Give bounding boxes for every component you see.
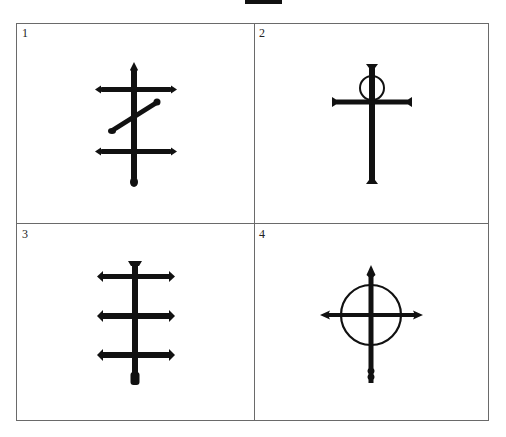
symbol-2-cross-with-circle-icon [332, 64, 412, 184]
symbol-1-cross-two-bars-diagonal-icon [95, 62, 177, 187]
symbol-3-triple-barred-cross-icon [97, 261, 175, 385]
symbol-4-circled-cross-arrows-icon [320, 265, 423, 383]
